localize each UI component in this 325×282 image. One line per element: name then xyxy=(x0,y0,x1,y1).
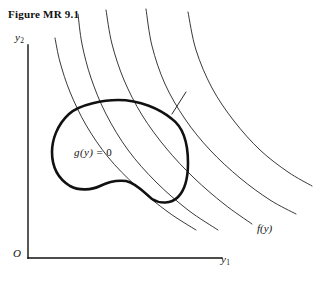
level-curve-4 xyxy=(146,9,296,214)
figure-title: Figure MR 9.1 xyxy=(8,8,79,20)
objective-function-label: f(y) xyxy=(257,222,272,234)
level-curve-3-tangent xyxy=(106,10,252,224)
level-curve-1 xyxy=(55,38,196,230)
objective-function-arg: (y) xyxy=(260,222,272,234)
y-axis-label-subscript: 2 xyxy=(20,36,24,45)
constraint-value: 0 xyxy=(106,146,112,158)
objective-contours-group xyxy=(55,9,312,230)
level-curve-2 xyxy=(78,14,218,230)
y-axis-label: y2 xyxy=(15,31,24,43)
x-axis-label-subscript: 1 xyxy=(226,258,230,267)
constraint-equation-label: g(y) = 0 xyxy=(74,146,112,158)
constraint-function-arg: (y) xyxy=(80,146,93,158)
figure-container: Figure MR 9.1 y2 y1 O g(y) = 0 f(y) xyxy=(0,0,325,282)
figure-canvas xyxy=(0,0,325,282)
constraint-equals-sign: = xyxy=(93,146,106,158)
axes-group xyxy=(28,45,222,258)
tangency-pointer-line xyxy=(172,92,186,114)
origin-label: O xyxy=(13,247,21,259)
level-curve-5 xyxy=(188,12,312,186)
constraint-region-boundary xyxy=(52,100,188,203)
x-axis-label: y1 xyxy=(221,253,230,265)
